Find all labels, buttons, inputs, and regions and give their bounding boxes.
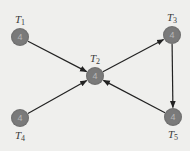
node-label-t1: T1 [15, 14, 25, 27]
node-value: 4 [170, 113, 175, 122]
node-value: 4 [92, 72, 97, 81]
node-label-t4: T4 [15, 130, 25, 143]
label-subscript: 3 [173, 16, 177, 25]
node-t3: 4 [163, 26, 181, 44]
edge-t1-to-t2 [28, 41, 87, 71]
edge-t4-to-t2 [28, 81, 87, 114]
node-label-t2: T2 [90, 53, 100, 66]
edge-t2-to-t3 [103, 40, 164, 72]
node-t5: 4 [164, 108, 182, 126]
node-t1: 4 [11, 28, 29, 46]
label-subscript: 1 [21, 18, 25, 27]
task-graph-diagram: 4T14T24T34T44T5 [0, 0, 190, 151]
node-label-t3: T3 [167, 12, 177, 25]
edge-t5-to-t2 [103, 80, 165, 112]
node-label-t5: T5 [168, 129, 178, 142]
node-value: 4 [17, 114, 22, 123]
label-subscript: 4 [21, 134, 25, 143]
node-value: 4 [17, 33, 22, 42]
node-t4: 4 [11, 109, 29, 127]
edge-t3-to-t5 [172, 44, 173, 108]
node-t2: 4 [86, 67, 104, 85]
label-subscript: 5 [174, 133, 178, 142]
node-value: 4 [169, 31, 174, 40]
label-subscript: 2 [96, 57, 100, 66]
